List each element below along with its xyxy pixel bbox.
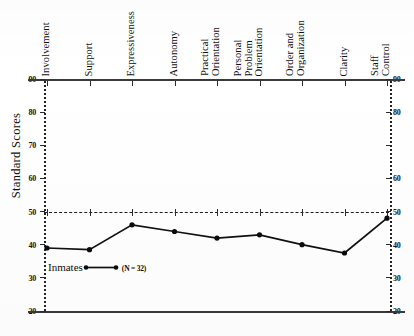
data-point-marker bbox=[257, 232, 262, 237]
data-point-marker bbox=[214, 236, 219, 241]
data-point-marker bbox=[299, 242, 304, 247]
chart-figure: Standard Scores 9080706050403020 9080605… bbox=[0, 0, 414, 336]
legend-sample-size: (N = 32) bbox=[122, 264, 146, 273]
data-point-marker bbox=[384, 216, 389, 221]
chart-legend: Inmates (N = 32) bbox=[48, 261, 146, 274]
data-point-marker bbox=[129, 222, 134, 227]
data-point-marker bbox=[342, 250, 347, 255]
legend-series-label: Inmates bbox=[48, 261, 83, 273]
data-series-plot bbox=[0, 0, 414, 336]
data-point-marker bbox=[87, 247, 92, 252]
legend-line-marker-icon bbox=[83, 263, 119, 272]
data-point-marker bbox=[44, 245, 49, 250]
data-point-marker bbox=[172, 229, 177, 234]
